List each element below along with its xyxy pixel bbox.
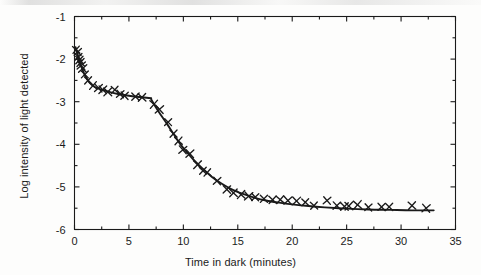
- y-tick-label: -1: [56, 11, 66, 23]
- y-tick-label: -5: [56, 181, 66, 193]
- x-tick-label: 25: [341, 235, 353, 247]
- x-tick-label: 30: [395, 235, 407, 247]
- curve-branch: [151, 100, 433, 211]
- x-tick-label: 0: [71, 235, 77, 247]
- data-point-marker: [323, 197, 331, 205]
- dark-adaptation-chart-figure: 05101520253035 -1-2-3-4-5-6 Time in dark…: [0, 0, 481, 275]
- data-point-marker: [408, 202, 416, 210]
- y-tick-label: -6: [56, 224, 66, 236]
- data-point-marker: [170, 130, 177, 137]
- data-point-markers: [73, 46, 431, 212]
- x-tick-label: 10: [177, 235, 189, 247]
- x-tick-label: 35: [449, 235, 461, 247]
- data-point-marker: [302, 199, 309, 206]
- data-point-marker: [213, 177, 221, 185]
- data-point-marker: [293, 197, 301, 205]
- x-tick-label: 20: [286, 235, 298, 247]
- y-tick-label: -3: [56, 96, 66, 108]
- data-point-marker: [353, 201, 361, 209]
- plot-canvas: 05101520253035 -1-2-3-4-5-6: [0, 0, 481, 275]
- y-axis-title: Log intensity of light detected: [18, 16, 30, 236]
- data-point-marker: [175, 137, 183, 145]
- y-tick-label: -2: [56, 53, 66, 65]
- x-tick-label: 15: [232, 235, 244, 247]
- x-tick-label: 5: [126, 235, 132, 247]
- x-axis-title: Time in dark (minutes): [0, 256, 481, 268]
- y-axis-tick-labels: -1-2-3-4-5-6: [56, 11, 66, 236]
- x-axis-tick-labels: 05101520253035: [71, 235, 461, 247]
- y-tick-label: -4: [56, 138, 66, 150]
- fitted-curve: [76, 47, 434, 210]
